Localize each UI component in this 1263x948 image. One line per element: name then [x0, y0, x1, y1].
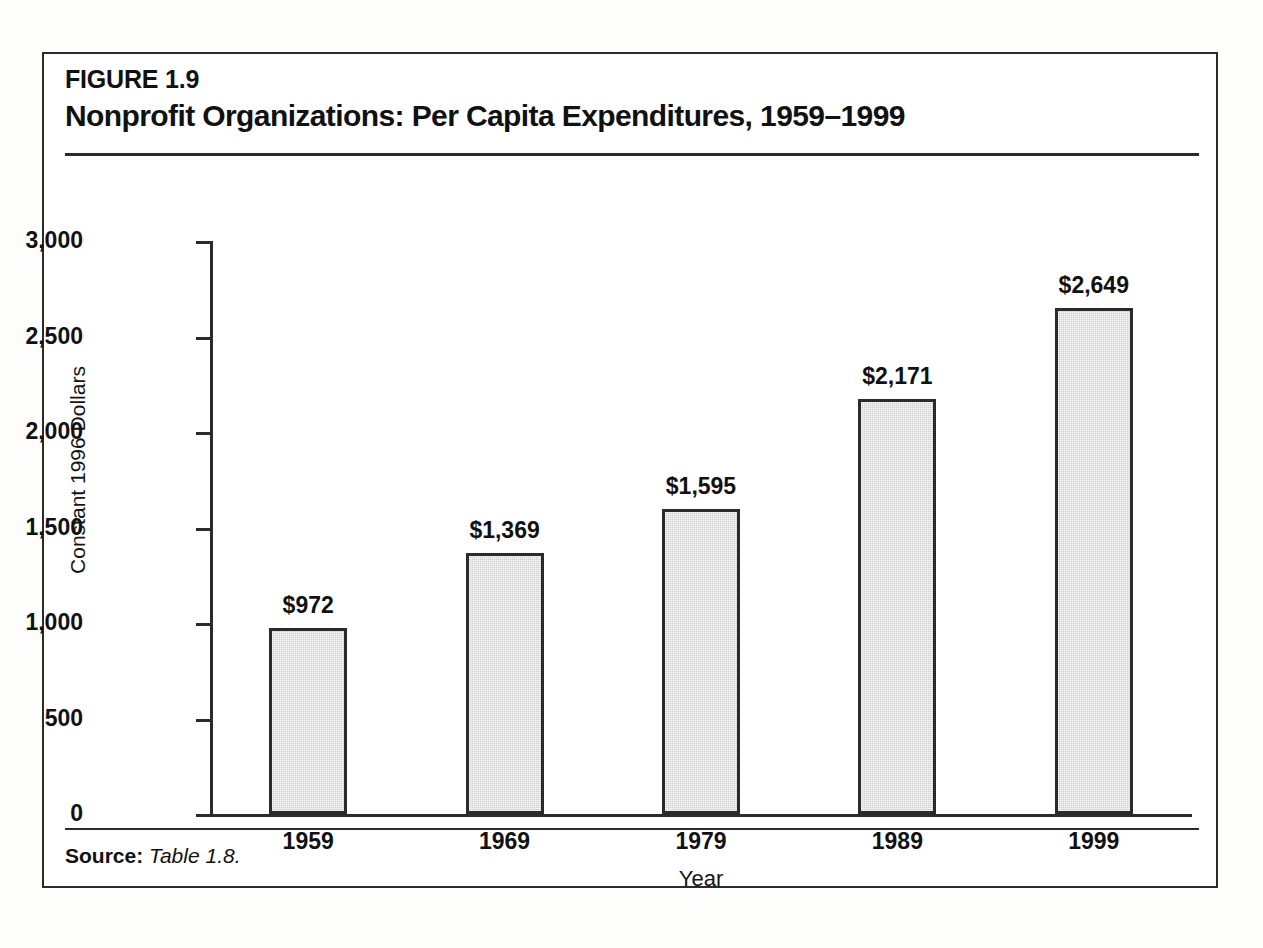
figure-number: FIGURE 1.9	[65, 64, 1199, 94]
x-axis-tick-label: 1979	[675, 828, 726, 855]
y-axis-tick-label: 1,500	[0, 514, 83, 541]
bar-group: $9721959	[210, 164, 406, 814]
bar-group: $2,1711989	[799, 164, 995, 814]
bar-group: $1,5951979	[603, 164, 799, 814]
figure-frame: FIGURE 1.9 Nonprofit Organizations: Per …	[42, 52, 1218, 888]
header-divider	[65, 153, 1199, 156]
source-reference: Table 1.8.	[149, 844, 240, 867]
bar-group: $2,6491999	[996, 164, 1192, 814]
bar-value-label: $1,595	[666, 473, 736, 500]
bar-group: $1,3691969	[406, 164, 602, 814]
figure-title: Nonprofit Organizations: Per Capita Expe…	[65, 97, 1199, 135]
source-note: Source: Table 1.8.	[65, 843, 241, 868]
y-axis-tick-label: 3,000	[0, 227, 83, 254]
x-axis-title: Year	[210, 866, 1192, 892]
bar	[662, 509, 740, 814]
x-axis-line	[210, 814, 1192, 817]
bar-series: $9721959$1,3691969$1,5951979$2,1711989$2…	[210, 164, 1192, 814]
x-axis-tick-label: 1999	[1068, 828, 1119, 855]
bar-value-label: $2,649	[1059, 272, 1129, 299]
chart-plot-area: Constant 1996 Dollars 05001,0001,5002,00…	[44, 164, 1220, 824]
source-label: Source:	[65, 844, 143, 867]
y-axis-tick-label: 2,500	[0, 323, 83, 350]
bar-value-label: $972	[283, 592, 334, 619]
x-axis-tick-label: 1989	[872, 828, 923, 855]
bar	[466, 553, 544, 814]
figure-header: FIGURE 1.9 Nonprofit Organizations: Per …	[65, 64, 1199, 135]
bar	[1055, 308, 1133, 814]
source-divider	[65, 828, 1199, 830]
y-axis-tick-label: 1,000	[0, 609, 83, 636]
x-axis-tick-label: 1959	[283, 828, 334, 855]
bar	[269, 628, 347, 814]
y-axis-tick-label: 2,000	[0, 418, 83, 445]
y-axis-tick-label: 500	[0, 705, 83, 732]
bar-value-label: $2,171	[862, 363, 932, 390]
y-axis-tick	[196, 814, 213, 817]
y-axis-tick-label: 0	[0, 800, 83, 827]
bar	[858, 399, 936, 814]
bar-value-label: $1,369	[469, 517, 539, 544]
x-axis-tick-label: 1969	[479, 828, 530, 855]
